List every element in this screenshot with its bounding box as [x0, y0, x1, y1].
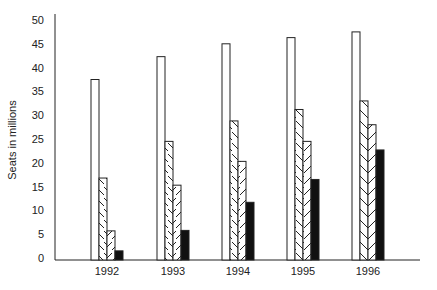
- bar-hatch-slash: [107, 231, 115, 260]
- bar-white: [287, 38, 295, 260]
- bar-hatch-slash: [238, 161, 246, 260]
- bar-hatch-slash: [303, 141, 311, 260]
- y-tick-label: 30: [32, 109, 44, 121]
- y-tick-label: 35: [32, 85, 44, 97]
- y-tick-label: 25: [32, 133, 44, 145]
- bar-group-1993: [157, 57, 189, 260]
- y-tick-label: 10: [32, 204, 44, 216]
- bar-hatch-backslash: [360, 101, 368, 260]
- y-tick-label: 45: [32, 38, 44, 50]
- y-tick-label: 40: [32, 62, 44, 74]
- bar-group-1992: [91, 80, 123, 261]
- y-axis-ticks: 05101520253035404550: [32, 14, 44, 264]
- x-tick-label: 1993: [161, 265, 185, 277]
- bar-hatch-slash: [368, 125, 376, 260]
- bar-group-1994: [222, 44, 254, 260]
- y-tick-label: 20: [32, 157, 44, 169]
- y-tick-label: 5: [38, 228, 44, 240]
- y-axis-label: Seats in millions: [6, 100, 18, 180]
- bar-white: [352, 32, 360, 260]
- bar-black: [311, 179, 319, 260]
- x-tick-label: 1994: [226, 265, 250, 277]
- x-tick-label: 1992: [95, 265, 119, 277]
- bar-groups: [91, 32, 384, 260]
- bar-group-1995: [287, 38, 319, 260]
- bar-white: [222, 44, 230, 260]
- bar-black: [181, 230, 189, 260]
- x-axis-ticks: 19921993199419951996: [95, 265, 380, 277]
- bar-hatch-backslash: [295, 109, 303, 260]
- x-tick-label: 1996: [356, 265, 380, 277]
- bar-hatch-backslash: [99, 178, 107, 260]
- bar-hatch-backslash: [230, 121, 238, 260]
- bar-black: [246, 202, 254, 260]
- bar-white: [157, 57, 165, 260]
- bar-white: [91, 80, 99, 261]
- bar-black: [376, 150, 384, 260]
- bar-hatch-slash: [173, 185, 181, 260]
- bar-black: [115, 251, 123, 260]
- bar-group-1996: [352, 32, 384, 260]
- bar-hatch-backslash: [165, 141, 173, 260]
- x-tick-label: 1995: [291, 265, 315, 277]
- y-tick-label: 15: [32, 181, 44, 193]
- y-tick-label: 0: [38, 252, 44, 264]
- bar-chart: Seats in millions 05101520253035404550 1…: [0, 0, 437, 290]
- y-tick-label: 50: [32, 14, 44, 26]
